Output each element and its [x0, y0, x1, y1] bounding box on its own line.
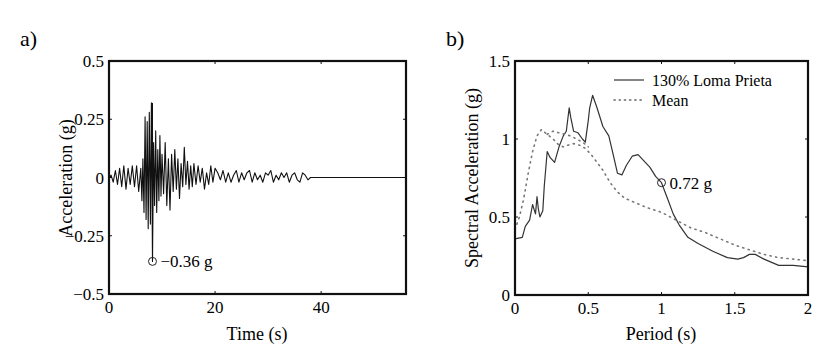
panel-a-annotation-label: −0.36 g	[160, 252, 213, 271]
legend-label-loma-prieta: 130% Loma Prieta	[652, 72, 772, 89]
panel-a-x-tick-label: 0	[105, 298, 114, 317]
panel-a-y-tick-label: 0.25	[74, 110, 104, 129]
panel-b-x-tick-label: 0	[511, 299, 520, 318]
panel-a-y-tick-label: 0.5	[83, 52, 104, 71]
panel-b-x-axis-label: Period (s)	[626, 324, 697, 345]
panel-b-x-tick-label: 0.5	[578, 299, 599, 318]
panel-b-annotation-label: 0.72 g	[670, 174, 713, 193]
panel-b-spectrum-chart: b) 00.511.5 00.511.52 Spectral Accelerat…	[446, 26, 812, 345]
panel-b-y-tick-label: 0	[502, 286, 511, 305]
panel-a-y-tick-label: −0.5	[73, 285, 104, 304]
panel-b-y-tick-label: 1.5	[489, 52, 510, 71]
panel-a-x-axis-label: Time (s)	[227, 324, 288, 345]
panel-b-y-tick-label: 0.5	[489, 208, 510, 227]
panel-a-y-axis-label: Acceleration (g)	[56, 119, 77, 236]
panel-b-y-axis-label: Spectral Acceleration (g)	[462, 88, 483, 268]
panel-b-series-130-loma-prieta	[515, 95, 808, 267]
panel-a-series-acceleration-time-history	[109, 103, 406, 262]
panel-b-label: b)	[446, 26, 464, 51]
panel-b-legend: 130% Loma Prieta Mean	[614, 72, 772, 109]
panel-b-x-tick-label: 1	[657, 299, 666, 318]
figure: a) −0.5−0.2500.250.5 02040 Acceleration …	[0, 0, 832, 362]
panel-a-y-tick-label: 0	[96, 169, 105, 188]
panel-b-series-mean	[515, 130, 808, 261]
panel-b-x-tick-label: 1.5	[724, 299, 745, 318]
panel-b-y-tick-label: 1	[502, 130, 511, 149]
legend-label-mean: Mean	[652, 92, 688, 109]
panel-b-x-tick-label: 2	[804, 299, 813, 318]
panel-a-x-tick-label: 20	[207, 298, 224, 317]
panel-a-acceleration-chart: a) −0.5−0.2500.250.5 02040 Acceleration …	[20, 26, 406, 345]
panel-a-x-tick-label: 40	[313, 298, 330, 317]
panel-a-label: a)	[20, 26, 37, 51]
